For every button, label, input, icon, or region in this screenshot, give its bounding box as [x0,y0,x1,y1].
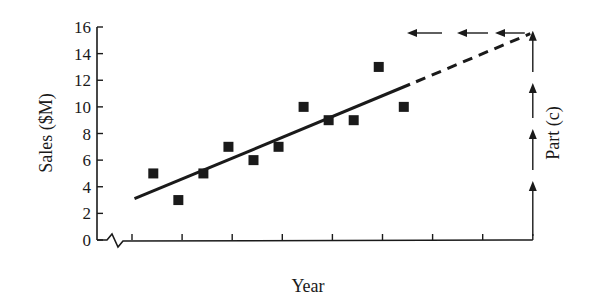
y-tick-label: 2 [83,204,92,223]
x-axis [97,234,533,247]
y-tick-label: 0 [83,231,92,250]
trend-line-solid [135,84,411,198]
data-point-square [324,115,334,125]
y-tick-label: 4 [83,178,92,197]
y-tick-label: 10 [74,98,91,117]
part-c-label: Part (c) [543,106,564,159]
data-point-square [299,102,309,112]
data-point-square [148,168,158,178]
y-tick-label: 14 [74,45,92,64]
data-point-square [173,195,183,205]
y-axis: 0246810121416 [74,18,103,250]
part-c-arrows [412,33,533,236]
data-point-square [248,155,258,165]
y-tick-label: 12 [74,71,91,90]
data-point-square [198,168,208,178]
data-point-square [223,142,233,152]
x-axis-title: Year [291,276,324,296]
y-axis-title: Sales ($M) [36,93,57,173]
data-point-square [374,62,384,72]
x-axis-line-with-break [97,234,533,247]
data-point-square [399,102,409,112]
y-tick-label: 16 [74,18,91,37]
y-tick-label: 8 [83,125,92,144]
y-tick-label: 6 [83,151,92,170]
data-points [148,62,409,205]
sales-chart: 0246810121416 Sales ($M) Year Part (c) [0,0,591,308]
data-point-square [349,115,359,125]
trend-line-dashed-extrapolation [416,34,530,82]
data-point-square [274,142,284,152]
